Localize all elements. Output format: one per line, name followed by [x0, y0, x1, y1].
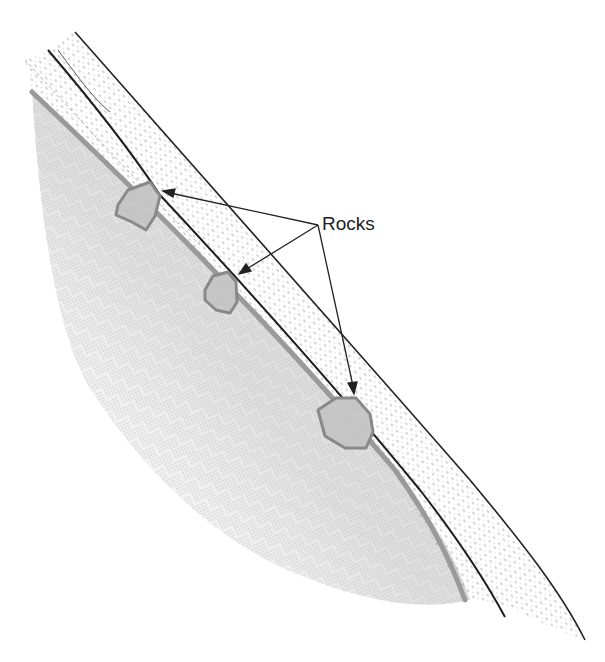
slope-cross-section-diagram: Rocks — [0, 0, 605, 662]
rocks-label: Rocks — [322, 213, 375, 234]
bedrock-layer — [32, 92, 470, 605]
